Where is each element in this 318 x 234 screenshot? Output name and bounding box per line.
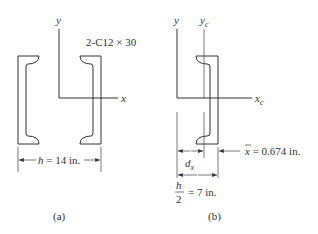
half-h-denominator: 2 bbox=[176, 193, 182, 205]
half-h-label: = 7 in. bbox=[188, 186, 217, 198]
h-dimension-label: h = 14 in. bbox=[38, 154, 81, 166]
right-channel-section bbox=[80, 56, 101, 144]
caption-a: (a) bbox=[53, 210, 66, 223]
panel-b: y yc xc dx x = 0.674 in. h 2 = 7 in. (b) bbox=[173, 14, 301, 223]
caption-b: (b) bbox=[208, 210, 221, 223]
xbar-label: x = 0.674 in. bbox=[244, 145, 301, 157]
xc-axis-label: xc bbox=[254, 92, 264, 107]
panel-a: y x 2-C12 × 30 h = 14 in. (a) bbox=[18, 14, 137, 223]
channel-section bbox=[196, 56, 218, 144]
x-axis-label: x bbox=[120, 92, 126, 104]
left-channel-section bbox=[18, 56, 39, 144]
half-h-numerator: h bbox=[176, 179, 182, 191]
figure-canvas: y x 2-C12 × 30 h = 14 in. (a) y yc xc bbox=[0, 0, 318, 234]
dx-label: dx bbox=[185, 157, 195, 172]
y-axis-label: y bbox=[173, 14, 179, 26]
y-axis-label: y bbox=[55, 14, 61, 26]
section-label: 2-C12 × 30 bbox=[86, 36, 137, 48]
yc-axis-label: yc bbox=[199, 14, 209, 29]
